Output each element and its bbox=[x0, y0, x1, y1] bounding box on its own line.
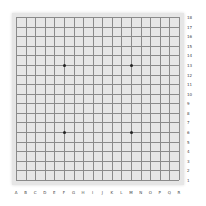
grid-line-vertical bbox=[102, 17, 103, 180]
row-label: 3 bbox=[187, 159, 197, 164]
board-grid[interactable] bbox=[16, 17, 179, 180]
column-label: E bbox=[50, 190, 58, 195]
grid-line-horizontal bbox=[16, 151, 179, 152]
grid-line-horizontal bbox=[16, 94, 179, 95]
grid-line-horizontal bbox=[16, 122, 179, 123]
star-point bbox=[130, 64, 133, 67]
row-label: 4 bbox=[187, 149, 197, 154]
grid-line-horizontal bbox=[16, 103, 179, 104]
grid-line-vertical bbox=[64, 17, 65, 180]
row-label: 11 bbox=[187, 82, 197, 87]
grid-line-vertical bbox=[121, 17, 122, 180]
grid-line-vertical bbox=[179, 17, 180, 180]
row-label: 14 bbox=[187, 53, 197, 58]
row-label: 5 bbox=[187, 140, 197, 145]
grid-line-vertical bbox=[54, 17, 55, 180]
column-label: M bbox=[127, 190, 135, 195]
row-label: 16 bbox=[187, 34, 197, 39]
row-label: 2 bbox=[187, 168, 197, 173]
grid-line-vertical bbox=[169, 17, 170, 180]
row-label: 17 bbox=[187, 25, 197, 30]
star-point bbox=[130, 131, 133, 134]
grid-line-vertical bbox=[93, 17, 94, 180]
star-point bbox=[63, 131, 66, 134]
column-label: R bbox=[175, 190, 183, 195]
column-label: D bbox=[41, 190, 49, 195]
grid-line-horizontal bbox=[16, 46, 179, 47]
column-label: I bbox=[89, 190, 97, 195]
grid-line-horizontal bbox=[16, 142, 179, 143]
column-label: N bbox=[137, 190, 145, 195]
column-label: A bbox=[12, 190, 20, 195]
row-label: 12 bbox=[187, 73, 197, 78]
row-label: 1 bbox=[187, 178, 197, 183]
row-label: 7 bbox=[187, 120, 197, 125]
grid-line-horizontal bbox=[16, 113, 179, 114]
column-label: F bbox=[60, 190, 68, 195]
grid-line-vertical bbox=[150, 17, 151, 180]
grid-line-vertical bbox=[45, 17, 46, 180]
grid-line-vertical bbox=[160, 17, 161, 180]
star-point bbox=[63, 64, 66, 67]
grid-line-vertical bbox=[16, 17, 17, 180]
column-label: H bbox=[79, 190, 87, 195]
grid-line-horizontal bbox=[16, 17, 179, 18]
row-label: 6 bbox=[187, 130, 197, 135]
column-label: G bbox=[70, 190, 78, 195]
column-label: J bbox=[98, 190, 106, 195]
column-label: C bbox=[31, 190, 39, 195]
grid-line-horizontal bbox=[16, 132, 179, 133]
row-label: 10 bbox=[187, 92, 197, 97]
grid-line-vertical bbox=[35, 17, 36, 180]
grid-line-horizontal bbox=[16, 84, 179, 85]
grid-line-vertical bbox=[26, 17, 27, 180]
grid-line-horizontal bbox=[16, 27, 179, 28]
row-label: 18 bbox=[187, 15, 197, 20]
column-label: L bbox=[117, 190, 125, 195]
grid-line-vertical bbox=[74, 17, 75, 180]
grid-line-horizontal bbox=[16, 170, 179, 171]
row-label: 15 bbox=[187, 44, 197, 49]
grid-line-vertical bbox=[141, 17, 142, 180]
grid-line-horizontal bbox=[16, 75, 179, 76]
column-label: K bbox=[108, 190, 116, 195]
grid-line-horizontal bbox=[16, 65, 179, 66]
grid-line-horizontal bbox=[16, 161, 179, 162]
grid-line-vertical bbox=[112, 17, 113, 180]
grid-line-horizontal bbox=[16, 36, 179, 37]
column-label: Q bbox=[165, 190, 173, 195]
column-label: P bbox=[156, 190, 164, 195]
grid-line-vertical bbox=[83, 17, 84, 180]
row-label: 13 bbox=[187, 63, 197, 68]
column-label: O bbox=[146, 190, 154, 195]
row-label: 9 bbox=[187, 101, 197, 106]
grid-line-vertical bbox=[131, 17, 132, 180]
grid-line-horizontal bbox=[16, 55, 179, 56]
grid-line-horizontal bbox=[16, 180, 179, 181]
column-label: B bbox=[22, 190, 30, 195]
row-label: 8 bbox=[187, 111, 197, 116]
